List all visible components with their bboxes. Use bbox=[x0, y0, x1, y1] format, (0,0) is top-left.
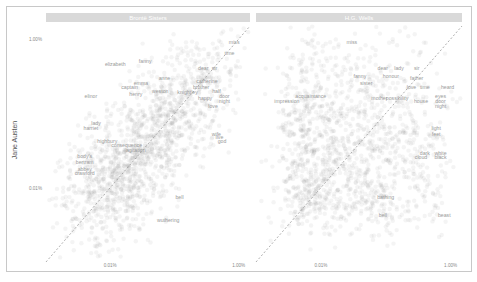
word-label: knightley bbox=[177, 89, 198, 95]
data-point bbox=[373, 185, 377, 189]
data-point bbox=[61, 196, 65, 200]
data-point bbox=[367, 146, 371, 150]
data-point bbox=[104, 154, 108, 158]
data-point bbox=[177, 163, 181, 167]
data-point bbox=[405, 139, 409, 143]
data-point bbox=[84, 179, 88, 183]
data-point bbox=[141, 182, 145, 186]
data-point bbox=[154, 103, 158, 107]
data-point bbox=[300, 38, 304, 42]
data-point bbox=[338, 123, 342, 127]
data-point bbox=[455, 100, 459, 104]
data-point bbox=[143, 96, 147, 100]
data-point bbox=[197, 131, 201, 135]
data-point bbox=[102, 179, 106, 183]
data-point bbox=[313, 137, 317, 141]
data-point bbox=[342, 202, 346, 206]
data-point bbox=[281, 109, 285, 113]
word-label: consequence bbox=[111, 142, 142, 148]
data-point bbox=[108, 166, 112, 170]
data-point bbox=[161, 59, 165, 63]
panel-1: H.G. Wellsmissdearladysirfannyhonourfath… bbox=[256, 13, 462, 268]
data-point bbox=[369, 181, 373, 185]
data-point bbox=[344, 114, 348, 118]
data-point bbox=[354, 189, 358, 193]
data-point bbox=[129, 204, 133, 208]
data-point bbox=[298, 113, 302, 117]
data-point bbox=[313, 209, 317, 213]
data-point bbox=[164, 161, 168, 165]
data-point bbox=[138, 135, 142, 139]
data-point bbox=[309, 231, 313, 235]
x-tick-label: 0.01% bbox=[314, 263, 327, 268]
data-point bbox=[228, 78, 232, 82]
data-point bbox=[299, 174, 303, 178]
data-point bbox=[331, 203, 335, 207]
data-point bbox=[402, 145, 406, 149]
data-point bbox=[98, 150, 102, 154]
data-point bbox=[358, 47, 362, 51]
data-point bbox=[328, 56, 332, 60]
data-point bbox=[209, 142, 213, 146]
data-point bbox=[433, 193, 437, 197]
data-point bbox=[177, 95, 181, 99]
data-point bbox=[79, 241, 83, 245]
data-point bbox=[135, 129, 139, 133]
data-point bbox=[165, 166, 169, 170]
data-point bbox=[92, 209, 96, 213]
data-point bbox=[290, 165, 294, 169]
data-point bbox=[176, 73, 180, 77]
data-point bbox=[136, 212, 140, 216]
data-point bbox=[63, 227, 67, 231]
data-point bbox=[289, 122, 293, 126]
data-point bbox=[72, 184, 76, 188]
data-point bbox=[150, 147, 154, 151]
data-point bbox=[379, 183, 383, 187]
data-point bbox=[118, 207, 122, 211]
data-point bbox=[297, 141, 301, 145]
data-point bbox=[259, 199, 263, 203]
data-point bbox=[169, 157, 173, 161]
data-point bbox=[430, 210, 434, 214]
data-point bbox=[109, 112, 113, 116]
data-point bbox=[104, 150, 108, 154]
data-point bbox=[94, 250, 98, 254]
data-point bbox=[348, 72, 352, 76]
data-point bbox=[197, 117, 201, 121]
data-point bbox=[349, 67, 353, 71]
data-point bbox=[136, 75, 140, 79]
data-point bbox=[105, 216, 109, 220]
data-point bbox=[95, 236, 99, 240]
data-point bbox=[87, 237, 91, 241]
data-point bbox=[325, 225, 329, 229]
data-point bbox=[104, 230, 108, 234]
data-point bbox=[385, 244, 389, 248]
data-point bbox=[290, 66, 294, 70]
data-point bbox=[178, 81, 182, 85]
data-point bbox=[82, 206, 86, 210]
word-label: bertram bbox=[76, 159, 94, 165]
data-point bbox=[406, 203, 410, 207]
data-point bbox=[375, 189, 379, 193]
word-label: miss bbox=[229, 39, 240, 45]
data-point bbox=[158, 130, 162, 134]
data-point bbox=[406, 148, 410, 152]
data-point bbox=[152, 187, 156, 191]
data-point bbox=[391, 81, 395, 85]
data-point bbox=[141, 222, 145, 226]
data-point bbox=[76, 123, 80, 127]
data-point bbox=[86, 183, 90, 187]
data-point bbox=[276, 125, 280, 129]
data-point bbox=[181, 106, 185, 110]
data-point bbox=[443, 175, 447, 179]
data-point bbox=[318, 202, 322, 206]
data-point bbox=[336, 188, 340, 192]
data-point bbox=[296, 185, 300, 189]
data-point bbox=[426, 174, 430, 178]
data-point bbox=[158, 105, 162, 109]
data-point bbox=[340, 111, 344, 115]
data-point bbox=[325, 102, 329, 106]
data-point bbox=[309, 170, 313, 174]
data-point bbox=[303, 184, 307, 188]
data-point bbox=[323, 202, 327, 206]
